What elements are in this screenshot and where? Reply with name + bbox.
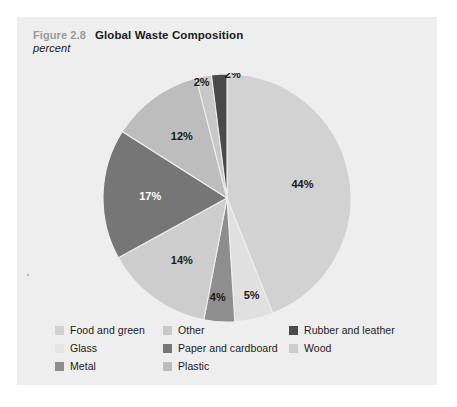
paper-speck: [27, 274, 29, 276]
legend-item[interactable]: Glass: [55, 341, 163, 355]
pie-data-label: 2%: [194, 76, 210, 88]
legend-item[interactable]: Metal: [55, 359, 163, 373]
figure-panel: Figure 2.8 Global Waste Composition perc…: [17, 17, 437, 385]
legend-item[interactable]: Other: [163, 323, 289, 337]
legend-swatch-other: [163, 326, 172, 335]
legend-item-spacer: [289, 359, 419, 373]
legend-swatch-wood: [289, 344, 298, 353]
legend-label: Other: [178, 324, 205, 336]
pie-data-label: 17%: [139, 190, 161, 202]
legend-label: Glass: [70, 342, 97, 354]
legend-label: Wood: [304, 342, 331, 354]
legend-item[interactable]: Paper and cardboard: [163, 341, 289, 355]
figure-title-line: Figure 2.8 Global Waste Composition: [33, 29, 423, 41]
legend-label: Plastic: [178, 360, 209, 372]
legend-swatch-metal: [55, 362, 64, 371]
figure-number: Figure 2.8: [33, 29, 86, 41]
legend-label: Rubber and leather: [304, 324, 395, 336]
pie-data-label: 5%: [244, 289, 260, 301]
figure-header: Figure 2.8 Global Waste Composition perc…: [33, 29, 423, 54]
figure-subtitle: percent: [33, 42, 423, 54]
pie-chart: 44%5%4%14%17%12%2%2%: [102, 73, 352, 323]
legend-swatch-food-and-green: [55, 326, 64, 335]
chart-legend: Food and green Glass Metal Other Paper a…: [55, 323, 430, 373]
legend-item[interactable]: Wood: [289, 341, 419, 355]
legend-swatch-rubber-and-leather: [289, 326, 298, 335]
pie-data-label: 14%: [171, 254, 193, 266]
pie-chart-area: 44%5%4%14%17%12%2%2%: [17, 73, 437, 321]
legend-item[interactable]: Rubber and leather: [289, 323, 419, 337]
page-title: Global Waste Composition: [95, 29, 243, 41]
legend-swatch-paper-and-cardboard: [163, 344, 172, 353]
pie-data-label: 12%: [171, 130, 193, 142]
pie-data-label: 2%: [225, 73, 241, 80]
legend-swatch-plastic: [163, 362, 172, 371]
legend-swatch-glass: [55, 344, 64, 353]
legend-label: Food and green: [70, 324, 145, 336]
legend-item[interactable]: Plastic: [163, 359, 289, 373]
pie-data-label: 44%: [291, 178, 313, 190]
legend-label: Metal: [70, 360, 96, 372]
legend-label: Paper and cardboard: [178, 342, 278, 354]
legend-column: Other Paper and cardboard Plastic: [163, 323, 289, 373]
legend-item[interactable]: Food and green: [55, 323, 163, 337]
legend-column: Rubber and leather Wood: [289, 323, 419, 373]
pie-data-label: 4%: [210, 291, 226, 303]
legend-column: Food and green Glass Metal: [55, 323, 163, 373]
